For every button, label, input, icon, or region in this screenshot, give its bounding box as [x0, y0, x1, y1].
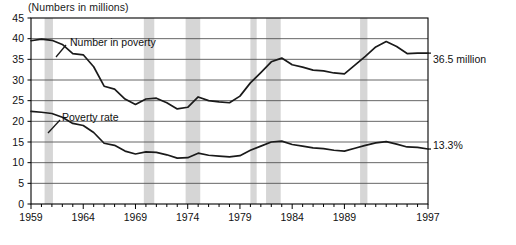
x-tick-label: 1989 [320, 212, 368, 223]
y-tick-label: 30 [4, 75, 24, 86]
poverty-chart-figure: (Numbers in millions) 051015202530354045… [0, 0, 516, 245]
y-tick-label: 45 [4, 13, 24, 24]
series-label-number-in-poverty: Number in poverty [70, 36, 156, 48]
recession-band [266, 18, 281, 204]
y-tick-label: 35 [4, 54, 24, 65]
x-tick-label: 1979 [216, 212, 264, 223]
y-tick-label: 0 [4, 199, 24, 210]
endpoint-label-number-in-poverty: 36.5 million [433, 53, 486, 65]
recession-band [360, 18, 367, 204]
recession-band [45, 18, 53, 204]
recession-band [186, 18, 201, 204]
series-lines-group [31, 39, 428, 158]
y-tick-label: 40 [4, 33, 24, 44]
x-tick-label: 1959 [7, 212, 55, 223]
series-line-number-in-poverty [31, 39, 428, 109]
y-tick-label: 15 [4, 137, 24, 148]
y-tick-label: 10 [4, 157, 24, 168]
recession-band [250, 18, 256, 204]
x-tick-label: 1997 [404, 212, 452, 223]
x-tick-label: 1984 [268, 212, 316, 223]
x-tick-label: 1969 [111, 212, 159, 223]
label-leader-line [56, 45, 66, 57]
x-axis-ticks-group [31, 204, 428, 209]
y-tick-label: 25 [4, 95, 24, 106]
y-tick-label: 5 [4, 178, 24, 189]
x-tick-label: 1964 [59, 212, 107, 223]
x-tick-label: 1974 [164, 212, 212, 223]
series-label-poverty-rate: Poverty rate [62, 111, 119, 123]
y-tick-label: 20 [4, 116, 24, 127]
endpoint-label-poverty-rate: 13.3% [433, 139, 463, 151]
